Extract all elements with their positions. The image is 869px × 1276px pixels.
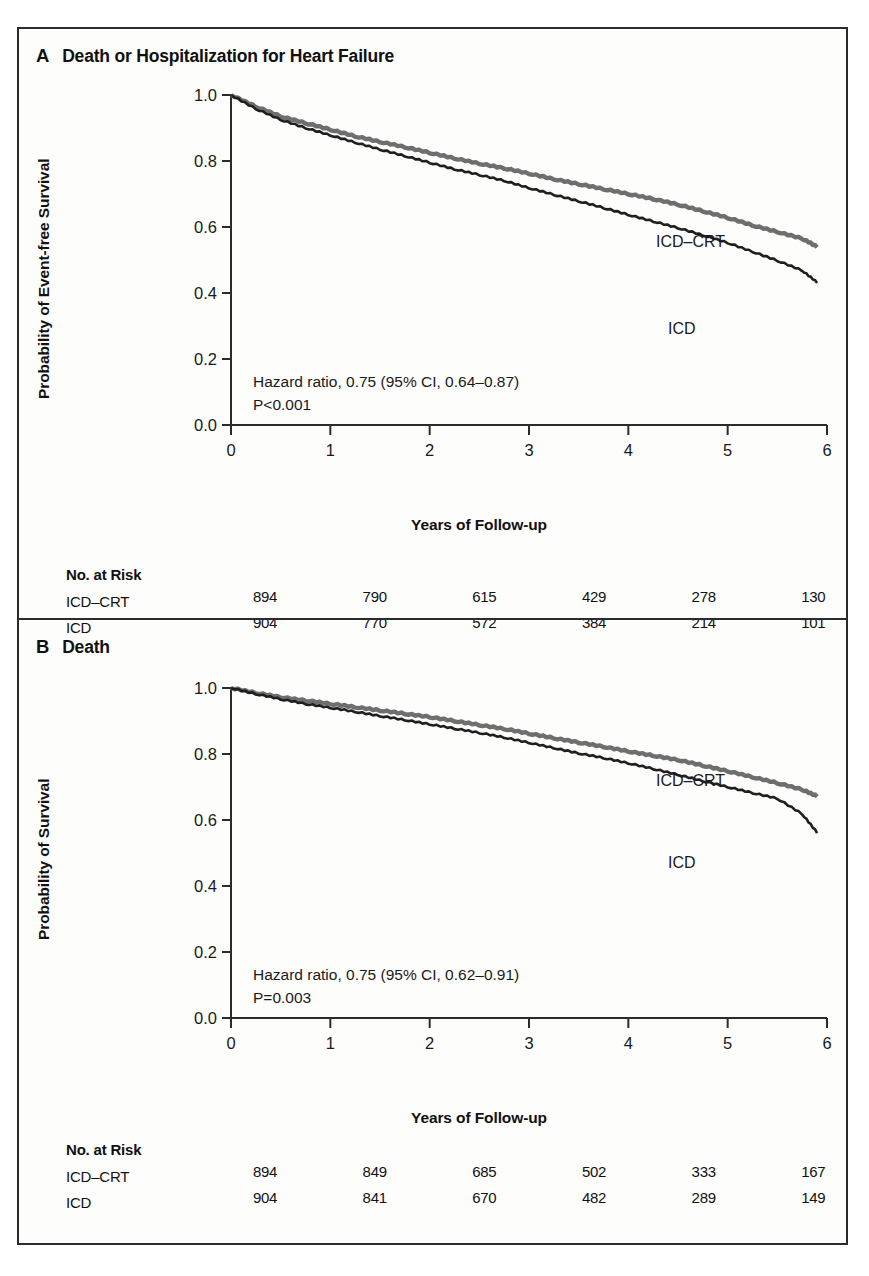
y-tick-label: 0.2: [194, 943, 217, 961]
x-tick-label: 1: [326, 1034, 335, 1052]
risk-value: 429: [582, 586, 606, 607]
curve-icd-crt: [231, 95, 817, 247]
risk-value: 167: [801, 1161, 825, 1182]
x-tick-label: 0: [226, 1034, 235, 1052]
risk-value: 502: [582, 1161, 606, 1182]
p-value-text: P<0.001: [253, 396, 311, 413]
curve-icd: [231, 95, 817, 283]
panel-b-y-axis-label: Probability of Survival: [35, 779, 53, 940]
p-value-text: P=0.003: [253, 989, 311, 1006]
panel-b-svg: 0.00.20.40.60.81.00123456ICD–CRTICDHazar…: [159, 680, 834, 1080]
x-tick-label: 1: [326, 441, 335, 459]
x-tick-label: 4: [624, 1034, 633, 1052]
y-tick-label: 0.6: [194, 218, 217, 236]
y-tick-label: 1.0: [194, 680, 217, 697]
risk-value: 894: [253, 1161, 277, 1182]
risk-value: 904: [253, 1187, 277, 1208]
panel-b-title: Death: [62, 637, 110, 658]
risk-row-name: ICD–CRT: [66, 591, 180, 612]
x-tick-label: 4: [624, 441, 633, 459]
risk-value: 289: [692, 1187, 716, 1208]
risk-value: 894: [253, 586, 277, 607]
risk-value: 841: [363, 1187, 387, 1208]
risk-row-name: ICD–CRT: [66, 1166, 180, 1187]
x-tick-label: 6: [822, 441, 831, 459]
panel-b-header: B Death: [36, 636, 110, 658]
panel-b-x-axis-label: Years of Follow-up: [159, 1109, 799, 1127]
hazard-ratio-text: Hazard ratio, 0.75 (95% CI, 0.62–0.91): [253, 966, 519, 983]
curve-label-icd: ICD: [668, 854, 696, 871]
y-tick-label: 0.8: [194, 745, 217, 763]
y-tick-label: 0.4: [194, 284, 217, 302]
panel-b-risk-table: No. at Risk ICD–CRT 89484968550233316753…: [66, 1141, 826, 1214]
panel-a-letter: A: [36, 45, 49, 67]
x-tick-label: 3: [524, 441, 533, 459]
y-tick-label: 0.6: [194, 811, 217, 829]
risk-value: 790: [363, 586, 387, 607]
x-tick-label: 0: [226, 441, 235, 459]
curve-icd: [231, 688, 817, 833]
y-tick-label: 0.0: [194, 416, 217, 434]
y-tick-label: 0.0: [194, 1009, 217, 1027]
x-tick-label: 3: [524, 1034, 533, 1052]
risk-row-values: 89484968550233316753: [180, 1161, 826, 1182]
risk-value: 615: [472, 586, 496, 607]
risk-value: 849: [363, 1161, 387, 1182]
risk-row-name: ICD: [66, 1192, 180, 1213]
risk-row-values: 89479061542927813041: [180, 586, 826, 607]
panel-b-letter: B: [36, 636, 49, 658]
panel-b-risk-title: No. at Risk: [66, 1141, 826, 1158]
x-tick-label: 6: [822, 1034, 831, 1052]
x-tick-label: 2: [425, 1034, 434, 1052]
table-row: ICD 90484167048228914935: [66, 1187, 826, 1213]
y-tick-label: 0.8: [194, 152, 217, 170]
x-tick-label: 5: [723, 441, 732, 459]
panel-a-x-axis-label: Years of Follow-up: [159, 516, 799, 534]
risk-value: 130: [801, 586, 825, 607]
panel-a-header: A Death or Hospitalization for Heart Fai…: [36, 45, 394, 67]
risk-row-values: 90484167048228914935: [180, 1187, 826, 1208]
risk-value: 149: [801, 1187, 825, 1208]
hazard-ratio-text: Hazard ratio, 0.75 (95% CI, 0.64–0.87): [253, 373, 519, 390]
panel-b-plot: 0.00.20.40.60.81.00123456ICD–CRTICDHazar…: [159, 680, 834, 1080]
table-row: ICD–CRT 89484968550233316753: [66, 1161, 826, 1187]
figure-frame: A Death or Hospitalization for Heart Fai…: [17, 27, 848, 1245]
y-tick-label: 0.2: [194, 350, 217, 368]
y-tick-label: 0.4: [194, 877, 217, 895]
panel-a-y-axis-label: Probability of Event-free Survival: [35, 159, 53, 399]
panel-a-title: Death or Hospitalization for Heart Failu…: [62, 46, 394, 67]
risk-value: 278: [692, 586, 716, 607]
panel-a-plot: 0.00.20.40.60.81.00123456ICD–CRTICDHazar…: [159, 87, 834, 487]
risk-value: 482: [582, 1187, 606, 1208]
curve-label-icd-crt: ICD–CRT: [656, 772, 725, 789]
y-tick-label: 1.0: [194, 87, 217, 104]
risk-value: 670: [472, 1187, 496, 1208]
panel-a: A Death or Hospitalization for Heart Fai…: [19, 29, 846, 618]
table-row: ICD–CRT 89479061542927813041: [66, 586, 826, 612]
risk-value: 685: [472, 1161, 496, 1182]
curve-label-icd: ICD: [668, 320, 696, 337]
panel-a-svg: 0.00.20.40.60.81.00123456ICD–CRTICDHazar…: [159, 87, 834, 487]
x-tick-label: 5: [723, 1034, 732, 1052]
panel-a-risk-title: No. at Risk: [66, 566, 826, 583]
risk-value: 333: [692, 1161, 716, 1182]
x-tick-label: 2: [425, 441, 434, 459]
curve-label-icd-crt: ICD–CRT: [656, 233, 725, 250]
